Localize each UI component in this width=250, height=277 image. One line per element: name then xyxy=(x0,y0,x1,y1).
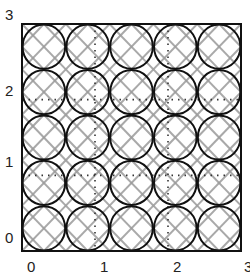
y-tick-3: 3 xyxy=(5,6,13,23)
x-tick-2: 2 xyxy=(173,258,181,275)
y-axis-tick-labels: 0 1 2 3 xyxy=(5,6,13,246)
x-tick-0: 0 xyxy=(27,258,35,275)
y-tick-0: 0 xyxy=(5,229,13,246)
y-tick-2: 2 xyxy=(5,82,13,99)
diagonal-lattice xyxy=(22,24,241,251)
x-axis-tick-labels: 0 1 2 3 xyxy=(27,258,250,275)
x-tick-1: 1 xyxy=(100,258,108,275)
y-tick-1: 1 xyxy=(5,153,13,170)
x-tick-3: 3 xyxy=(244,258,250,275)
circle-packing-diagram: 0 1 2 3 0 1 2 3 xyxy=(0,0,250,277)
